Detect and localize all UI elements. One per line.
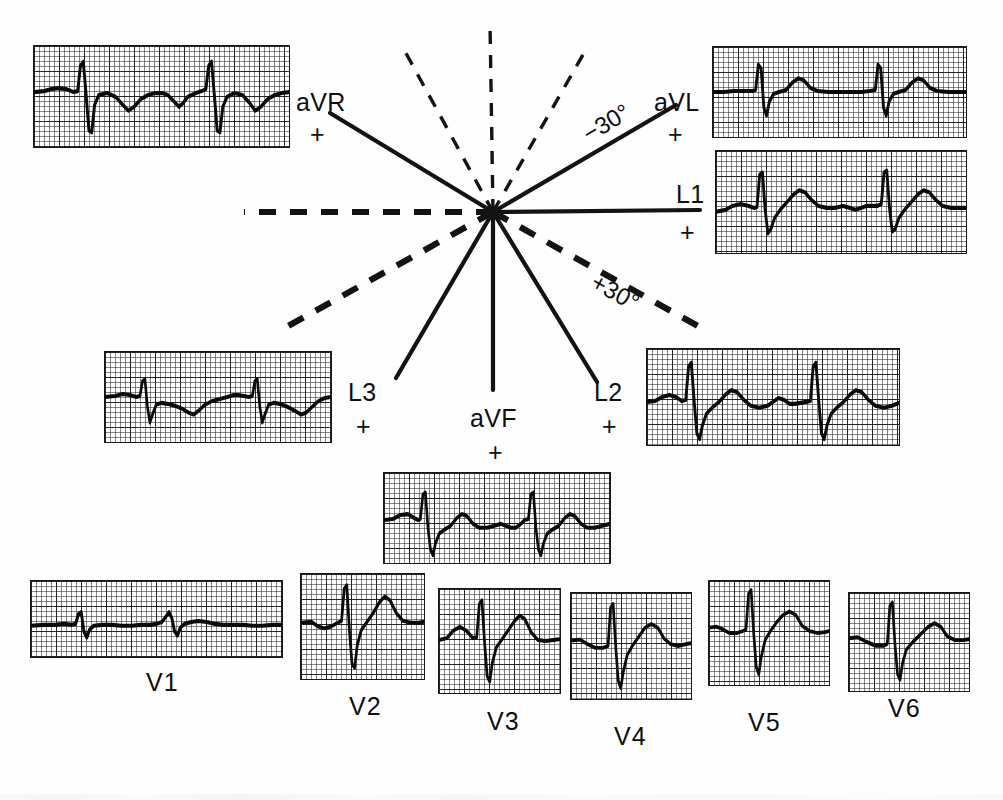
ecg-trace-l1: [716, 171, 966, 234]
axis-l2-positive: [493, 212, 597, 382]
ecg-strip-avl: [712, 46, 967, 138]
ecg-trace-avf: [384, 493, 610, 556]
axis-label-avl: aVL: [654, 88, 699, 117]
angle-label-plus-30: +30°: [586, 268, 644, 317]
lead-label-v1: V1: [146, 668, 179, 697]
axis-avl-negative: [281, 212, 493, 330]
axis-plus-l1: +: [680, 218, 695, 247]
angle-label-minus-30: −30°: [578, 98, 636, 148]
axis-label-l1: L1: [676, 180, 704, 209]
ecg-strip-l1: [715, 150, 967, 254]
ecg-trace-v5: [709, 590, 829, 674]
lead-label-v4: V4: [614, 722, 647, 751]
axis-plus-l2: +: [602, 412, 617, 441]
ecg-strip-v5: [708, 580, 830, 686]
axis-avf-negative: [490, 22, 493, 212]
ecg-strip-avr: [33, 45, 290, 148]
ecg-trace-v6: [849, 602, 969, 679]
ecg-trace-avr: [34, 62, 289, 133]
axis-plus-l3: +: [356, 412, 371, 441]
axis-plus-avf: +: [488, 438, 503, 467]
page-edge-artifact: [0, 794, 1003, 800]
lead-label-v3: V3: [487, 707, 520, 736]
ecg-strip-l3: [104, 351, 332, 443]
lead-label-v6: V6: [888, 694, 921, 723]
axis-label-avr: aVR: [296, 88, 346, 117]
lead-label-v2: V2: [349, 692, 382, 721]
ecg-strip-v4: [570, 592, 692, 700]
axis-plus-avr: +: [310, 120, 325, 149]
ecg-hexaxial-figure: aVR + aVL + L1 + L3 + aVF + L2 + −30° +3…: [0, 0, 1003, 800]
ecg-strip-v2: [300, 573, 425, 680]
ecg-trace-v2: [301, 585, 424, 668]
lead-label-v5: V5: [748, 708, 781, 737]
ecg-trace-v1: [31, 612, 282, 637]
ecg-strip-v6: [848, 592, 970, 692]
axis-plus-avl: +: [668, 120, 683, 149]
ecg-strip-avf: [383, 472, 611, 564]
ecg-trace-v3: [439, 600, 560, 681]
axis-label-avf: aVF: [470, 404, 517, 433]
axis-label-l3: L3: [348, 378, 376, 407]
ecg-trace-avl: [713, 65, 966, 116]
ecg-trace-l2: [647, 363, 899, 439]
axis-l3-positive: [396, 212, 493, 378]
ecg-trace-l3: [105, 379, 331, 422]
axis-l1-positive: [493, 210, 700, 212]
ecg-strip-l2: [646, 348, 900, 446]
ecg-strip-v3: [438, 588, 561, 694]
axis-label-l2: L2: [594, 378, 622, 407]
axis-l3-negative: [493, 46, 588, 212]
axis-avr-positive: [330, 113, 493, 212]
axis-l2-negative: [402, 46, 493, 212]
ecg-strip-v1: [30, 580, 283, 658]
ecg-trace-v4: [571, 604, 691, 688]
